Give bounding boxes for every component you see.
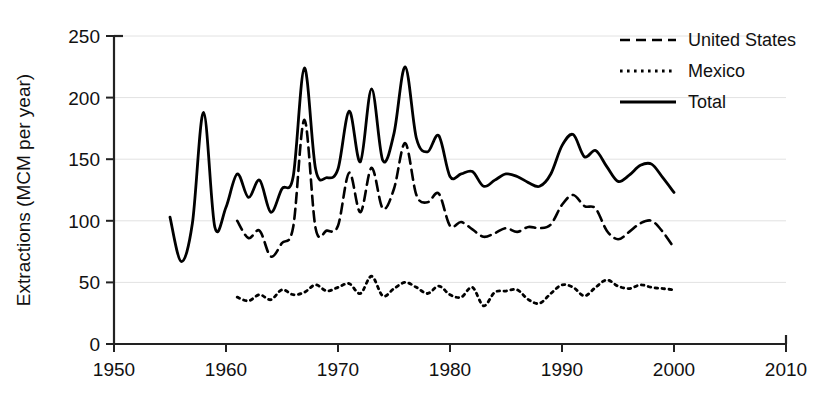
chart-legend: United StatesMexicoTotal [620,30,796,112]
line-chart: 050100150200250 195019601970198019902000… [0,0,832,412]
y-tick-label: 0 [89,334,100,355]
legend-label: Mexico [688,61,745,81]
series-line-united-states [237,120,674,257]
y-tick-label: 150 [68,149,100,170]
x-axis-tick-labels: 1950196019701980199020002010 [93,359,807,380]
x-axis-ticks [114,344,786,352]
x-tick-label: 2000 [653,359,695,380]
x-tick-label: 1980 [429,359,471,380]
x-tick-label: 1960 [205,359,247,380]
series-line-total [170,67,674,262]
y-axis-title: Extractions (MCM per year) [13,74,34,306]
y-tick-label: 250 [68,26,100,47]
y-tick-label: 100 [68,211,100,232]
series-line-mexico [237,276,674,306]
series-lines [170,67,674,306]
x-tick-label: 2010 [765,359,807,380]
x-tick-label: 1950 [93,359,135,380]
y-axis-ticks [106,36,114,344]
x-tick-label: 1990 [541,359,583,380]
y-tick-label: 200 [68,88,100,109]
y-axis-tick-labels: 050100150200250 [68,26,100,355]
legend-label: Total [688,92,726,112]
x-tick-label: 1970 [317,359,359,380]
legend-label: United States [688,30,796,50]
axis-lines [114,36,786,344]
chart-figure: 050100150200250 195019601970198019902000… [0,0,832,412]
gridlines [114,36,786,344]
y-tick-label: 50 [79,272,100,293]
